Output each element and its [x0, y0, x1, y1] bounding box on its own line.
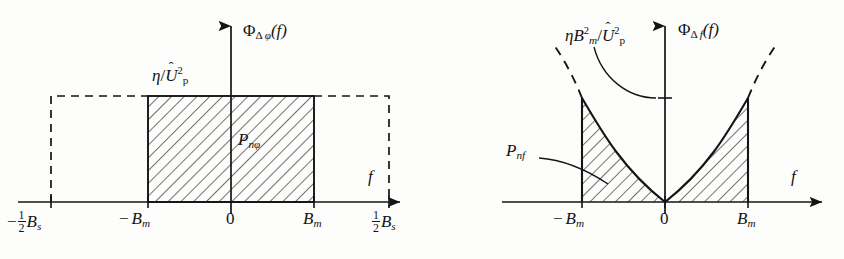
y-axis-label: ΦΔφ(f) — [243, 22, 287, 41]
region-label-base: P — [506, 141, 516, 160]
amplitude-u-subscript: p — [619, 34, 625, 46]
y-axis-label-base: Φ — [243, 21, 255, 40]
frequency-noise-plot-svg — [422, 0, 844, 259]
tick-base: B — [27, 212, 37, 231]
region-label-pnphi: Pnφ — [238, 131, 260, 150]
y-axis-label: ΦΔf(f) — [678, 21, 719, 40]
u-hat-accent: ˆ — [605, 20, 610, 34]
amplitude-label: ηB2m/ˆU2p — [565, 26, 625, 46]
tick-subscript: m — [313, 217, 321, 229]
tick-label-pos-half-bs: 12Bs — [371, 209, 396, 234]
tick-subscript: m — [747, 217, 755, 229]
region-label-sub-phi: φ — [254, 138, 260, 150]
y-axis-label-sub-delta: Δ — [255, 29, 262, 41]
tick-label-neg-bm: −Bm — [119, 210, 150, 229]
region-label-base: P — [238, 130, 248, 149]
chart-phase-noise-psd: ΦΔφ(f) η/ˆU2p Pnφ f −12Bs −Bm 0 Bm 12Bs — [0, 0, 422, 259]
frac-numerator: 1 — [18, 209, 26, 221]
tick-base: B — [737, 209, 747, 228]
tick-subscript: s — [37, 220, 41, 232]
x-axis-label: f — [791, 168, 796, 185]
frac-numerator: 1 — [372, 209, 380, 221]
tick-minus-sign: − — [7, 212, 17, 231]
tick-base: B — [303, 209, 313, 228]
tick-label-pos-bm: Bm — [303, 210, 322, 229]
hatched-parabola-left — [582, 98, 665, 202]
tick-label-neg-half-bs: −12Bs — [7, 209, 41, 234]
tick-minus-sign: − — [553, 209, 563, 228]
tick-label-zero: 0 — [660, 210, 669, 227]
figure-root: ΦΔφ(f) η/ˆU2p Pnφ f −12Bs −Bm 0 Bm 12Bs — [0, 0, 844, 259]
tick-minus-sign: − — [119, 209, 129, 228]
tick-label-zero: 0 — [226, 210, 235, 227]
frac-denominator: 2 — [18, 221, 26, 234]
y-axis-label-base: Φ — [678, 20, 690, 39]
hatched-parabola-right — [665, 98, 748, 202]
tick-subscript: m — [142, 217, 150, 229]
amplitude-b-subscript: m — [589, 34, 597, 46]
x-axis-label: f — [368, 168, 373, 185]
tick-subscript: s — [391, 220, 395, 232]
phase-noise-plot-svg — [0, 0, 422, 259]
tick-subscript: m — [576, 217, 584, 229]
tick-label-neg-bm: −Bm — [553, 210, 584, 229]
region-label-subscript: nf — [516, 149, 525, 161]
amplitude-leader-line — [594, 47, 656, 98]
frac-denominator: 2 — [372, 221, 380, 234]
tick-base: B — [132, 209, 142, 228]
amplitude-b: B — [573, 26, 583, 45]
amplitude-subscript: p — [183, 74, 189, 86]
region-label-pnf: Pnf — [506, 142, 525, 161]
u-hat-accent: ˆ — [169, 60, 174, 74]
tick-base: B — [566, 209, 576, 228]
y-axis-label-sub-delta: Δ — [690, 28, 697, 40]
y-axis-label-arg: (f) — [271, 21, 287, 40]
y-axis-label-arg: (f) — [703, 20, 719, 39]
amplitude-label: η/ˆU2p — [152, 66, 188, 86]
tick-label-pos-bm: Bm — [737, 210, 756, 229]
chart-frequency-noise-psd: ΦΔf(f) ηB2m/ˆU2p Pnf f −Bm 0 Bm — [422, 0, 844, 259]
parabola-dashed-left — [554, 45, 582, 98]
parabola-dashed-right — [748, 45, 776, 98]
tick-base: B — [381, 212, 391, 231]
